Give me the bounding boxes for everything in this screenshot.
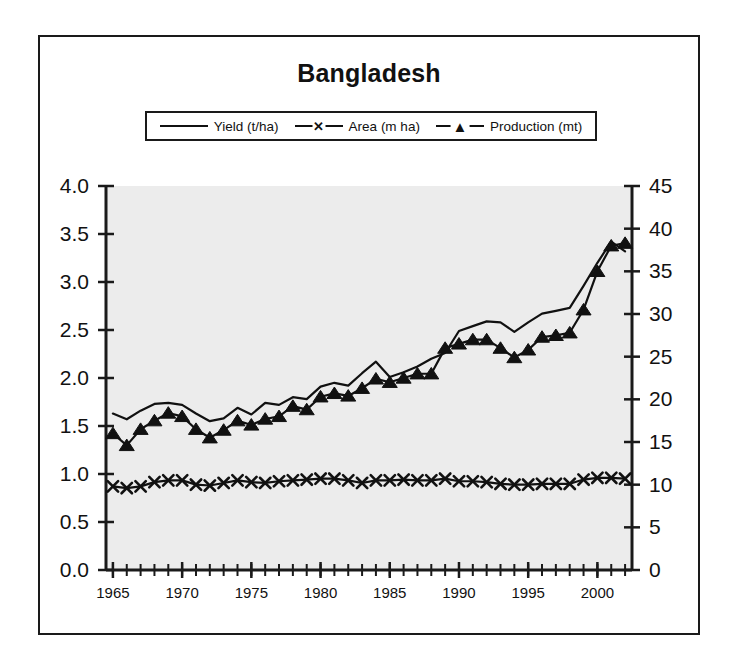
legend-label-yield: Yield (t/ha)	[212, 119, 279, 134]
chart-title: Bangladesh	[40, 59, 698, 88]
legend-swatch-triangle-marker-icon: ▲	[436, 119, 484, 133]
chart-legend: Yield (t/ha) ✕ Area (m ha) ▲ Production …	[145, 111, 597, 141]
chart-figure: Bangladesh Yield (t/ha) ✕ Area (m ha) ▲	[0, 0, 745, 671]
legend-label-production: Production (mt)	[488, 119, 582, 134]
legend-swatch-x-marker-icon: ✕	[295, 119, 343, 133]
legend-entry-yield: Yield (t/ha)	[160, 119, 279, 134]
legend-swatch-line-icon	[160, 119, 208, 133]
legend-entry-production: ▲ Production (mt)	[436, 119, 582, 134]
x-marker-icon: ✕	[312, 120, 325, 133]
legend-entry-area: ✕ Area (m ha)	[295, 119, 420, 134]
figure-border: Bangladesh Yield (t/ha) ✕ Area (m ha) ▲	[38, 35, 700, 635]
legend-label-area: Area (m ha)	[347, 119, 420, 134]
triangle-marker-icon: ▲	[450, 119, 469, 134]
